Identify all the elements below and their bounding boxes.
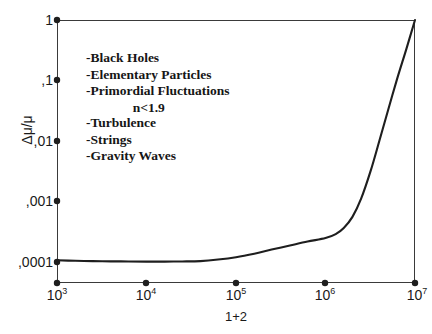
annotation-group-turbulence: -Turbulence -Strings -Gravity Waves (86, 115, 176, 165)
x-tick-mantissa: 10 (226, 287, 242, 303)
x-tick-exponent: 5 (241, 286, 246, 296)
x-tick-mantissa: 10 (47, 287, 63, 303)
x-tick-label-1e7: 107 (407, 287, 428, 303)
annotation-line-gravity-waves: -Gravity Waves (86, 148, 176, 165)
y-tick-dot-1 (54, 17, 60, 23)
annotation-line-turbulence: -Turbulence (86, 115, 176, 132)
annotation-line-primordial-fluctuations: -Primordial Fluctuations (86, 83, 230, 100)
x-tick-dot-1e6 (322, 280, 328, 286)
y-tick-dot-0.01 (54, 138, 60, 144)
annotation-line-elementary-particles: -Elementary Particles (86, 67, 230, 84)
annotation-group-primordial: -Black Holes -Elementary Particles -Prim… (86, 50, 230, 116)
x-axis-title: 1+2 (225, 309, 247, 324)
annotation-line-black-holes: -Black Holes (86, 50, 230, 67)
x-tick-exponent: 7 (422, 286, 427, 296)
x-tick-dot-1e5 (233, 280, 239, 286)
y-tick-label-1: 1 (45, 12, 53, 28)
y-axis-title: Δμ/μ (19, 115, 35, 144)
y-tick-marks (54, 17, 60, 265)
x-tick-dot-1e3 (54, 280, 60, 286)
y-tick-dot-0.001 (54, 198, 60, 204)
x-tick-mantissa: 10 (315, 287, 331, 303)
x-tick-dot-1e4 (143, 280, 149, 286)
annotation-line-spectral-index: n<1.9 (86, 100, 230, 117)
y-tick-label-0.001: ,001 (26, 193, 53, 209)
x-tick-exponent: 3 (62, 286, 67, 296)
x-tick-exponent: 6 (330, 286, 335, 296)
x-tick-marks (54, 280, 418, 286)
x-tick-label-1e3: 103 (47, 287, 68, 303)
x-tick-dot-1e7 (412, 280, 418, 286)
y-tick-label-0.01: ,01 (34, 133, 53, 149)
y-tick-dot-0.1 (54, 77, 60, 83)
x-tick-exponent: 4 (151, 286, 156, 296)
x-tick-label-1e4: 104 (136, 287, 157, 303)
y-tick-label-0.1: ,1 (41, 72, 53, 88)
chart-figure: 1 ,1 ,01 ,001 ,0001 Δμ/μ 103 104 105 106… (0, 0, 432, 334)
x-tick-mantissa: 10 (407, 287, 423, 303)
y-tick-label-0.0001: ,0001 (18, 254, 53, 270)
x-tick-label-1e5: 105 (226, 287, 247, 303)
y-axis-tick-labels: 1 ,1 ,01 ,001 ,0001 (0, 0, 53, 334)
annotation-line-strings: -Strings (86, 132, 176, 149)
x-tick-label-1e6: 106 (315, 287, 336, 303)
x-tick-mantissa: 10 (136, 287, 152, 303)
